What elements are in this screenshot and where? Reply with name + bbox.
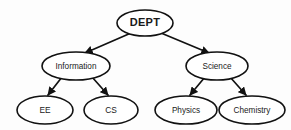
hierarchy-tree-diagram: DEPT Information Science EE CS Physics [0, 0, 291, 130]
node-dept-label: DEPT [130, 16, 161, 28]
edge-information-ee [48, 77, 62, 95]
node-cs[interactable]: CS [84, 96, 138, 124]
node-ee[interactable]: EE [17, 96, 73, 124]
edge-science-chemistry [230, 77, 246, 95]
edge-dept-information [85, 33, 131, 53]
edge-dept-science [161, 33, 209, 53]
node-science-label: Science [202, 62, 232, 71]
node-information[interactable]: Information [42, 52, 110, 80]
node-chemistry[interactable]: Chemistry [219, 96, 285, 124]
node-ee-label: EE [39, 105, 51, 115]
node-dept[interactable]: DEPT [117, 10, 173, 36]
node-cs-label: CS [105, 105, 117, 115]
edge-information-cs [92, 77, 108, 95]
node-physics-label: Physics [172, 106, 200, 115]
node-information-label: Information [56, 62, 97, 71]
node-chemistry-label: Chemistry [234, 106, 272, 115]
diagram-canvas: DEPT Information Science EE CS Physics [0, 0, 291, 130]
node-physics[interactable]: Physics [155, 96, 217, 124]
edge-science-physics [190, 77, 205, 95]
node-science[interactable]: Science [186, 52, 248, 80]
